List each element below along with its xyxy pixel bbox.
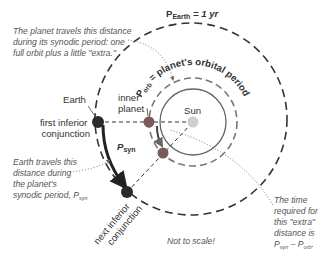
- not-to-scale-note: Not to scale!: [167, 236, 215, 246]
- inner-planet-dot-first: [144, 117, 155, 128]
- first-conjunction-label: first inferior conjunction: [40, 117, 90, 139]
- earth-dot-next: [121, 186, 133, 198]
- earth-period-label: PEarth = 1 yr: [166, 8, 220, 20]
- earth-label: Earth: [63, 94, 86, 105]
- psyn-label: Psyn: [117, 141, 135, 154]
- inner-planet-dot-next: [158, 148, 169, 159]
- planet-travel-note: The planet travels this distance during …: [13, 26, 134, 58]
- earth-travel-note: Earth travels this distance during the p…: [13, 157, 87, 201]
- sun-dot: [188, 117, 199, 128]
- inner-planet-label: inner planet: [118, 92, 144, 114]
- earth-label-leader: [88, 106, 95, 116]
- orbital-period-label: Porb = planet's orbital period: [133, 56, 252, 99]
- extra-time-formula: Psyn – Porb.: [274, 239, 314, 250]
- earth-dot-first: [92, 116, 104, 128]
- synodic-period-diagram: PEarth = 1 yr Porb = planet's orbital pe…: [0, 0, 323, 265]
- leader-extra-time: [170, 130, 273, 205]
- sun-label: Sun: [184, 105, 201, 116]
- extra-time-note: The time required for this "extra" dista…: [274, 195, 320, 238]
- next-conjunction-label: next inferior conjunction: [91, 196, 144, 253]
- inner-planet-leader: [147, 108, 148, 116]
